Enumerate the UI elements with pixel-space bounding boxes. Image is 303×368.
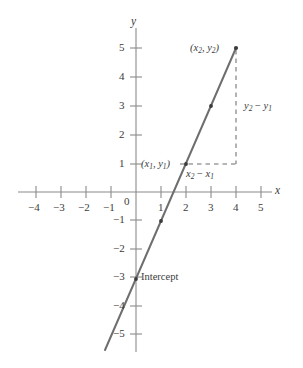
run-b-sub: 1: [210, 172, 214, 181]
x-tick-label--1: −1: [103, 202, 115, 213]
point-2-label: (x2, y2): [190, 43, 219, 54]
origin-label: 0: [124, 196, 130, 207]
y-axis-label: y: [131, 16, 136, 28]
paren-close: ): [167, 158, 171, 169]
point-marker-2: [184, 162, 188, 166]
x-tick-label-2: 2: [183, 202, 189, 213]
y-tick-label-2: 2: [119, 129, 125, 140]
point-marker-intercept: [134, 277, 138, 281]
x-tick-label-4: 4: [233, 202, 239, 213]
rise-b-sub: 1: [268, 104, 272, 113]
y-tick-label-3: 3: [119, 100, 125, 111]
x-tick-label-5: 5: [258, 202, 264, 213]
rise-operator: −: [252, 100, 263, 111]
y-tick-label-1: 1: [119, 158, 125, 169]
coordinate-plane-svg: [0, 0, 303, 368]
run-label: x2 − x1: [186, 169, 214, 180]
y-tick-label--5: −5: [113, 328, 125, 339]
x-tick-label--4: −4: [28, 202, 40, 213]
x-tick-label--3: −3: [53, 202, 65, 213]
y-tick-label-4: 4: [119, 71, 125, 82]
y-tick-label--3: −3: [113, 271, 125, 282]
point-1-label: (x1, y1): [141, 159, 170, 170]
x-tick-label--2: −2: [78, 202, 90, 213]
paren-close: ): [216, 42, 220, 53]
run-operator: −: [194, 168, 205, 179]
rise-label: y2 − y1: [244, 101, 272, 112]
x-axis-label: x: [275, 185, 280, 197]
point-marker-4: [234, 46, 238, 50]
intercept-label: Intercept: [141, 272, 178, 283]
y-tick-label--1: −1: [113, 214, 125, 225]
point-marker-1: [159, 219, 163, 223]
x-tick-label-3: 3: [208, 202, 214, 213]
y-tick-label-5: 5: [119, 42, 125, 53]
line-graph-figure: x y 0 −4 −3 −2 −1 1 2 3 4 5 5 4 3 2 1 −1…: [0, 0, 303, 368]
y-tick-label--4: −4: [113, 300, 125, 311]
x-tick-label-1: 1: [158, 202, 164, 213]
y-tick-label--2: −2: [113, 243, 125, 254]
point-marker-3: [209, 104, 213, 108]
